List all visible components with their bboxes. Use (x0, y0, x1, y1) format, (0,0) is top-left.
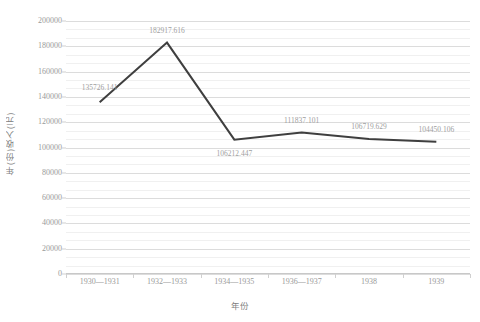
x-axis-tick-mark (470, 274, 471, 278)
plot-area: 135726.141182917.616106212.447111837.101… (66, 21, 470, 274)
y-axis-tick-label: 180000 (38, 42, 62, 50)
data-point-label: 106212.447 (217, 150, 253, 158)
y-axis-tick-label: 80000 (42, 169, 62, 177)
x-axis-tick-label: 1934—1935 (214, 278, 254, 286)
y-axis-title-text: 年(份)收入(元) (5, 112, 17, 175)
data-point-label: 106719.629 (351, 123, 387, 131)
data-point-label: 182917.616 (149, 27, 185, 35)
x-axis-tick-label: 1938 (361, 278, 377, 286)
x-axis-tick-mark (403, 274, 404, 278)
data-point-label: 111837.101 (284, 117, 319, 125)
y-axis-tick-label: 120000 (38, 118, 62, 126)
y-axis-tick-label: 60000 (42, 194, 62, 202)
x-axis-tick-mark (335, 274, 336, 278)
y-axis-tick-label: 40000 (42, 219, 62, 227)
y-axis-tick-label: 200000 (38, 17, 62, 25)
series-line-layer (66, 21, 470, 274)
y-axis-tick-label: 140000 (38, 93, 62, 101)
x-axis-tick-label: 1932—1933 (147, 278, 187, 286)
y-axis-tick-label: 100000 (38, 144, 62, 152)
x-axis-tick-labels: 1930—19311932—19331934—19351936—19371938… (66, 278, 470, 296)
x-axis-tick-label: 1930—1931 (80, 278, 120, 286)
x-axis-tick-label: 1936—1937 (282, 278, 322, 286)
y-axis-tick-labels: 0200004000060000800001000001200001400001… (20, 0, 66, 286)
y-axis-tick-label: 20000 (42, 245, 62, 253)
x-axis-tick-mark (268, 274, 269, 278)
data-point-label: 135726.141 (82, 85, 118, 93)
x-axis-title: 年份 (0, 299, 480, 311)
x-axis-tick-mark (133, 274, 134, 278)
x-axis-tick-mark (201, 274, 202, 278)
y-axis-tick-label: 160000 (38, 68, 62, 76)
x-axis-tick-label: 1939 (428, 278, 444, 286)
y-axis-title: 年(份)收入(元) (2, 0, 20, 286)
line-chart: 年(份)收入(元) 020000400006000080000100000120… (0, 0, 480, 322)
data-point-label: 104450.106 (419, 126, 455, 134)
x-axis-tick-mark (66, 274, 67, 278)
